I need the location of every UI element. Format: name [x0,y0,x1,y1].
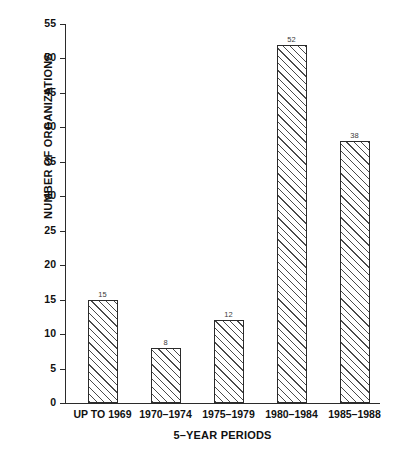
x-axis-tick-label: 1970–1974 [139,408,192,420]
bar-value-label: 38 [350,131,358,140]
y-axis-tick: 30 [60,196,65,197]
y-axis-tick: 20 [60,265,65,266]
bar-value-label: 15 [98,290,106,299]
bar-value-label: 8 [163,338,167,347]
x-axis-tick-label: 1980–1984 [265,408,318,420]
y-axis-tick: 5 [60,369,65,370]
bar-value-label: 12 [224,310,232,319]
x-axis-tick-label: 1975–1979 [202,408,255,420]
y-axis-tick: 15 [60,300,65,301]
bar-value-label: 52 [287,35,295,44]
y-axis-tick: 10 [60,334,65,335]
bar: 15 [88,300,118,403]
y-axis-tick-label: 0 [50,396,56,409]
y-axis-tick-label: 15 [44,293,56,306]
y-axis-tick: 0 [60,403,65,404]
y-axis-tick: 55 [60,24,65,25]
y-axis-tick-label: 20 [44,258,56,271]
y-axis-tick: 50 [60,58,65,59]
y-axis-tick-label: 45 [44,86,56,99]
bar-chart: NUMBER OF ORGANIZATIONS 0510152025303540… [0,0,400,455]
x-axis-title: 5–YEAR PERIODS [65,429,380,441]
y-axis-tick-label: 25 [44,224,56,237]
bar: 12 [214,320,244,403]
y-axis-tick: 25 [60,231,65,232]
y-axis-tick-label: 55 [44,17,56,30]
y-axis-spine [65,24,66,404]
y-axis-tick: 35 [60,162,65,163]
y-axis-tick-label: 40 [44,120,56,133]
y-axis-tick-label: 5 [50,362,56,375]
bar: 8 [151,348,181,403]
y-axis-tick-label: 30 [44,189,56,202]
y-axis-tick: 40 [60,127,65,128]
plot-area: 0510152025303540455055 158125238 UP TO 1… [65,24,380,404]
x-axis-tick-label: 1985–1988 [328,408,381,420]
y-axis-tick-label: 35 [44,155,56,168]
x-axis-tick-label: UP TO 1969 [74,408,132,420]
y-axis-tick-label: 50 [44,51,56,64]
y-axis-tick-label: 10 [44,327,56,340]
x-axis-spine [65,403,380,404]
y-axis-tick: 45 [60,93,65,94]
bar: 38 [340,141,370,403]
bar: 52 [277,45,307,403]
